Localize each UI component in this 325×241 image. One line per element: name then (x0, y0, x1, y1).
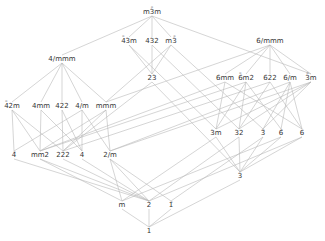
node-6: 6 (300, 130, 304, 137)
node-4mm: 4mm (32, 103, 50, 110)
node-622: 622 (263, 75, 276, 82)
node--6: 6̄ (279, 130, 283, 137)
node-2: 2 (147, 202, 151, 209)
node-m: m (119, 202, 126, 209)
edge--42m-222 (12, 110, 63, 151)
edge-2/m--1 (110, 159, 171, 201)
node--6m2: 6̄m2 (238, 75, 254, 82)
edge-mm2-2 (40, 159, 149, 201)
node--4: 4̄ (12, 152, 16, 159)
edge-32-3 (239, 137, 240, 172)
point-group-lattice-diagram: m3̄m4̄3m432m3̄6/mmm4/mmm236mm6̄m26226/m3… (0, 0, 325, 241)
node--42m: 4̄2m (4, 103, 20, 110)
edge-6/mmm-6mm (225, 45, 270, 74)
edge--42m-mm2 (12, 110, 40, 151)
edge-m-1 (122, 209, 149, 227)
node--3m: 3̄m (305, 75, 316, 82)
node-m-3m: m3̄m (143, 9, 161, 16)
edge--3m--3 (263, 82, 311, 129)
edge--43m-3m (129, 45, 216, 129)
edge-6/m--6 (281, 82, 290, 129)
node--43m: 4̄3m (121, 38, 137, 45)
edge-m-3m-4/mmm (62, 16, 152, 55)
edge-422-222 (62, 110, 63, 151)
edge-3-1 (149, 180, 240, 227)
node--1: 1̄ (169, 202, 173, 209)
edge--3--1 (171, 137, 263, 201)
edge-m-3-mmm (106, 45, 171, 102)
node-2/m: 2/m (103, 152, 117, 159)
edge-m-3m--3m (152, 16, 311, 74)
node-32: 32 (235, 130, 244, 137)
edge-6mm-mm2 (40, 82, 225, 151)
node-1: 1 (147, 228, 151, 235)
edge-3m-3 (216, 137, 240, 172)
node-4/m: 4/m (75, 103, 89, 110)
edge-222-2 (63, 159, 149, 201)
node-6mm: 6mm (216, 75, 234, 82)
node--3: 3̄ (261, 130, 265, 137)
edge-4/mmm-mmm (62, 63, 106, 102)
edge--3m-3m (216, 82, 311, 129)
node-mmm: mmm (96, 103, 116, 110)
node-432: 432 (145, 38, 158, 45)
edge--43m-23 (129, 45, 152, 74)
edge--42m--4 (12, 110, 14, 151)
node-4/mmm: 4/mmm (48, 56, 75, 63)
edge-622-32 (239, 82, 270, 129)
edge-6/mmm--3m (270, 45, 311, 74)
edge-4/mmm--42m (12, 63, 62, 102)
edge-m-3--3 (171, 45, 263, 129)
edge-432-32 (152, 45, 239, 129)
edge-m-3m--43m (129, 16, 152, 37)
edge-4/mmm-4mm (41, 63, 62, 102)
edge-4/mmm-4/m (62, 63, 82, 102)
node-6/mmm: 6/mmm (256, 38, 283, 45)
edge-6/mmm-6/m (270, 45, 290, 74)
edge-6-3 (240, 137, 302, 172)
edge-4mm-mm2 (40, 110, 41, 151)
edge-6/m-2/m (110, 82, 290, 151)
node-422: 422 (55, 103, 68, 110)
edge-23-222 (63, 82, 152, 151)
node-222: 222 (56, 152, 69, 159)
node-4: 4 (80, 152, 84, 159)
node-23: 23 (148, 75, 157, 82)
node-3: 3 (238, 173, 242, 180)
edge-mm2-m (40, 159, 122, 201)
node-m-3: m3̄ (165, 38, 176, 45)
edge--1-1 (149, 209, 171, 227)
node-3m: 3m (210, 130, 221, 137)
edge-4mm-4 (41, 110, 82, 151)
edge-mmm-222 (63, 110, 106, 151)
node-mm2: mm2 (31, 152, 49, 159)
node-6/m: 6/m (283, 75, 297, 82)
